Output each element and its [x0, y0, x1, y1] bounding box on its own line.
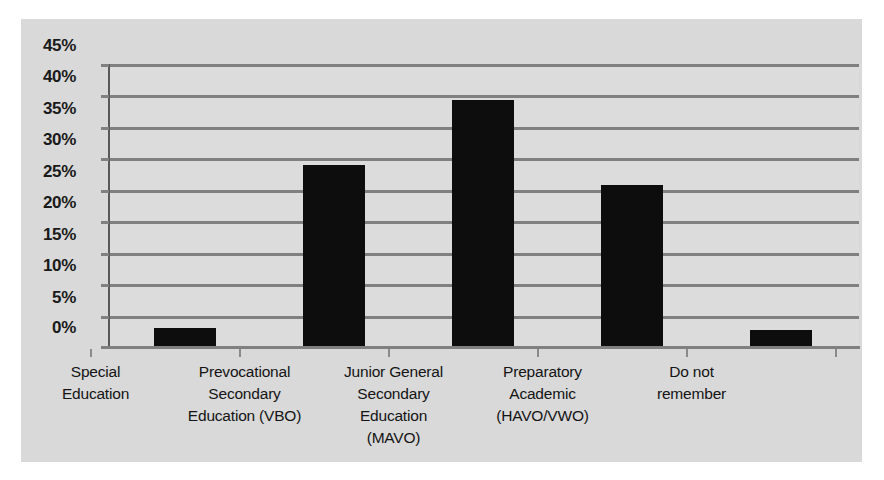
x-tick-mark-2: [388, 349, 390, 357]
category-label-line: Secondary: [165, 383, 324, 405]
y-tick-label-20: 20%: [16, 194, 76, 211]
category-label-line: Secondary: [314, 383, 473, 405]
y-tick-label-15: 15%: [16, 226, 76, 243]
y-tick-label-30: 30%: [16, 131, 76, 148]
bar-chart-figure: Special Education Prevocational Secondar…: [0, 0, 884, 480]
y-tick-label-0: 0%: [16, 319, 76, 336]
y-axis-tick-labels: 45% 40% 35% 30% 25% 20% 15% 10% 5% 0%: [14, 0, 76, 480]
category-label-line: Do not: [612, 361, 771, 383]
y-axis-line: [108, 64, 110, 349]
y-tick-label-35: 35%: [16, 100, 76, 117]
y-tick-label-25: 25%: [16, 163, 76, 180]
y-tick-mark-0: [101, 346, 109, 349]
y-tick-mark-20: [101, 221, 109, 224]
bar-prevocational-secondary-education: [303, 165, 365, 347]
category-label-line: Prevocational: [165, 361, 324, 383]
y-tick-mark-15: [101, 253, 109, 256]
category-label-line: remember: [612, 383, 771, 405]
x-tick-mark-1: [239, 349, 241, 357]
x-tick-mark-4: [686, 349, 688, 357]
x-axis-line: [108, 346, 860, 349]
gridline-45: [109, 64, 859, 67]
category-label-do-not-remember: Do not remember: [612, 361, 771, 405]
plot-area: [109, 64, 859, 347]
y-tick-label-5: 5%: [16, 289, 76, 306]
category-label-line: Junior General: [314, 361, 473, 383]
category-label-line: Academic: [463, 383, 622, 405]
category-label-line: Education (VBO): [165, 405, 324, 427]
bar-junior-general-secondary-education: [452, 100, 514, 347]
x-tick-mark-0: [90, 349, 92, 357]
y-tick-mark-30: [101, 158, 109, 161]
y-tick-mark-10: [101, 284, 109, 287]
category-label-line: Preparatory: [463, 361, 622, 383]
category-label-preparatory-academic: Preparatory Academic (HAVO/VWO): [463, 361, 622, 427]
x-tick-mark-3: [537, 349, 539, 357]
y-tick-label-40: 40%: [16, 68, 76, 85]
category-label-line: Education: [314, 405, 473, 427]
chart-panel: Special Education Prevocational Secondar…: [21, 19, 862, 462]
bar-preparatory-academic: [601, 185, 663, 347]
bar-special-education: [154, 328, 216, 347]
y-tick-mark-35: [101, 127, 109, 130]
y-tick-mark-5: [101, 316, 109, 319]
x-tick-mark-5: [835, 349, 837, 357]
category-label-line: (MAVO): [314, 427, 473, 449]
y-tick-label-45: 45%: [16, 37, 76, 54]
y-tick-mark-40: [101, 95, 109, 98]
y-tick-mark-25: [101, 190, 109, 193]
category-label-prevocational-secondary-education: Prevocational Secondary Education (VBO): [165, 361, 324, 427]
category-label-line: (HAVO/VWO): [463, 405, 622, 427]
bar-do-not-remember: [750, 330, 812, 347]
gridline-40: [109, 95, 859, 98]
y-tick-label-10: 10%: [16, 257, 76, 274]
y-tick-mark-45: [101, 64, 109, 67]
category-label-junior-general-secondary-education: Junior General Secondary Education (MAVO…: [314, 361, 473, 449]
